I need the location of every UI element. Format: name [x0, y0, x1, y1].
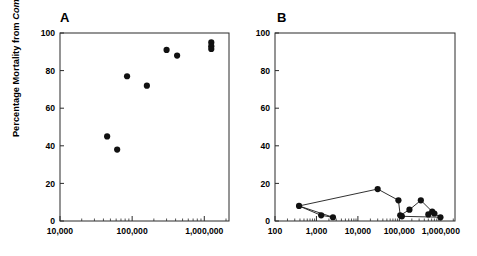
y-tick-label: 60 — [260, 103, 270, 113]
data-point — [174, 52, 180, 58]
y-tick-label: 80 — [45, 66, 55, 76]
data-point — [395, 197, 401, 203]
figure-root: A Percentage Mortality from Compsilura 0… — [0, 0, 477, 256]
data-point — [318, 212, 324, 218]
data-point — [330, 214, 336, 220]
data-point — [163, 47, 169, 53]
data-point — [208, 46, 214, 52]
x-tick-label: 100,000 — [384, 226, 415, 236]
data-point — [437, 214, 443, 220]
data-point — [104, 133, 110, 139]
plot-frame — [60, 33, 229, 221]
data-point — [144, 83, 150, 89]
y-tick-label: 40 — [260, 141, 270, 151]
data-point — [124, 73, 130, 79]
data-point — [399, 213, 405, 219]
panel-b: B 0204060801001001,00010,000100,0001,000… — [237, 0, 477, 256]
y-tick-label: 20 — [260, 179, 270, 189]
x-tick-label: 10,000 — [345, 226, 372, 236]
data-point — [375, 186, 381, 192]
data-point — [431, 210, 437, 216]
y-tick-label: 100 — [256, 28, 271, 38]
data-point — [406, 207, 412, 213]
x-tick-label: 100 — [268, 226, 283, 236]
x-tick-label: 1,000,000 — [185, 226, 223, 236]
data-point — [296, 203, 302, 209]
y-tick-label: 100 — [41, 28, 56, 38]
y-tick-label: 0 — [50, 216, 55, 226]
y-tick-label: 60 — [45, 103, 55, 113]
data-point — [418, 197, 424, 203]
x-tick-label: 1,000,000 — [422, 226, 460, 236]
y-tick-label: 40 — [45, 141, 55, 151]
panel-a-plot: 02040608010010,000100,0001,000,000 — [0, 0, 240, 256]
x-tick-label: 100,000 — [117, 226, 148, 236]
panel-b-plot: 0204060801001001,00010,000100,0001,000,0… — [237, 0, 477, 256]
y-tick-label: 20 — [45, 179, 55, 189]
panel-a: A Percentage Mortality from Compsilura 0… — [0, 0, 240, 256]
plot-frame — [275, 33, 455, 221]
x-tick-label: 10,000 — [47, 226, 74, 236]
data-point — [114, 146, 120, 152]
x-tick-label: 1,000 — [306, 226, 328, 236]
y-tick-label: 0 — [265, 216, 270, 226]
y-tick-label: 80 — [260, 66, 270, 76]
